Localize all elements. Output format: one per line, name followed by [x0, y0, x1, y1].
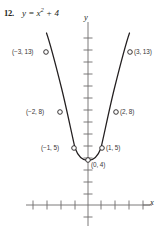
point-label-neg2: (−2, 8) [26, 108, 44, 115]
point-label-two: (2, 8) [120, 108, 134, 115]
point-label-one: (1, 5) [106, 144, 120, 151]
point-marker-neg3 [44, 50, 49, 55]
coordinate-plane-svg [0, 0, 162, 232]
graph-figure: 12. y = x2 + 4 y x [0, 0, 162, 232]
point-marker-one [100, 146, 105, 151]
point-marker-three [128, 50, 133, 55]
point-label-three: (3, 13) [134, 48, 152, 55]
point-marker-neg1 [72, 146, 77, 151]
point-label-neg3: (−3, 13) [12, 48, 33, 55]
point-label-neg1: (−1, 5) [41, 144, 59, 151]
point-marker-zero [86, 158, 91, 163]
point-marker-neg2 [58, 110, 63, 115]
point-label-zero: (0, 4) [91, 161, 105, 168]
point-marker-two [114, 110, 119, 115]
